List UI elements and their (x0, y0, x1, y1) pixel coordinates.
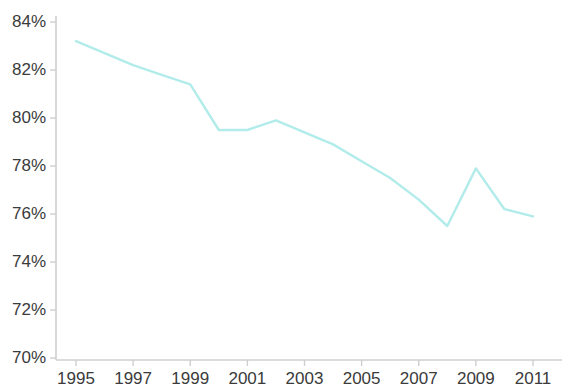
y-axis-tick-label: 72% (0, 300, 46, 320)
x-axis-tick-label: 1999 (171, 369, 209, 389)
x-axis-tick-label: 2005 (343, 369, 381, 389)
y-tick-marks (50, 22, 56, 358)
x-axis-tick-label: 2011 (515, 369, 552, 389)
x-axis-tick-label: 2003 (286, 369, 324, 389)
y-axis-tick-label: 82% (0, 60, 46, 80)
y-axis-tick-label: 70% (0, 348, 46, 368)
y-axis-tick-label: 74% (0, 252, 46, 272)
x-axis-tick-label: 2009 (457, 369, 495, 389)
data-line-series-1 (76, 41, 533, 226)
y-axis-tick-label: 84% (0, 12, 46, 32)
x-tick-marks (76, 360, 533, 366)
y-axis-tick-label: 76% (0, 204, 46, 224)
x-axis-tick-label: 2007 (400, 369, 438, 389)
x-axis-tick-label: 1995 (57, 369, 95, 389)
y-axis-tick-label: 80% (0, 108, 46, 128)
x-axis-tick-label: 1997 (114, 369, 152, 389)
chart-plot-area (0, 0, 568, 390)
line-chart: 84%82%80%78%76%74%72%70% 199519971999200… (0, 0, 568, 390)
y-axis-tick-label: 78% (0, 156, 46, 176)
x-axis-tick-label: 2001 (228, 369, 266, 389)
